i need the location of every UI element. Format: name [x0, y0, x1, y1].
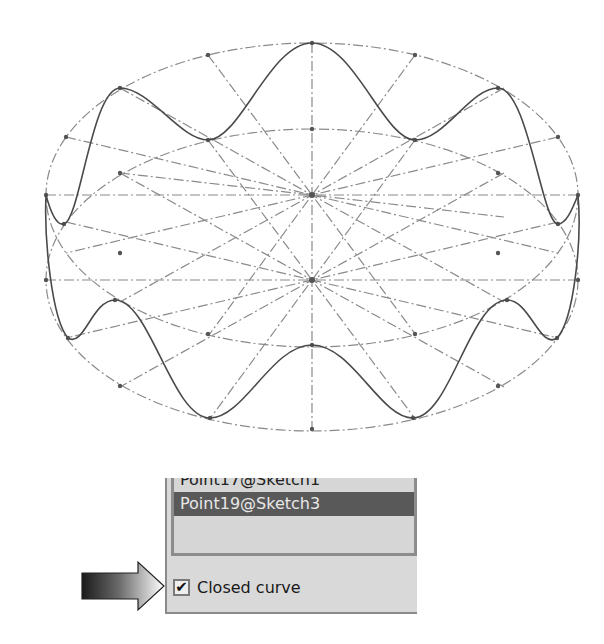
sketch-canvas [0, 0, 604, 450]
closed-curve-checkbox[interactable]: ✔ [173, 579, 190, 596]
point-selection-listbox[interactable]: Point17@Sketch1 Point19@Sketch3 [171, 478, 417, 556]
construction-geometry [46, 43, 578, 431]
list-item-selected[interactable]: Point19@Sketch3 [174, 492, 414, 516]
closed-curve-label[interactable]: Closed curve [197, 578, 301, 597]
checkmark-icon: ✔ [175, 580, 188, 595]
list-item[interactable]: Point17@Sketch1 [174, 478, 414, 492]
property-panel: Point17@Sketch1 Point19@Sketch3 ✔ Closed… [165, 478, 417, 614]
arrow-right-icon [80, 560, 172, 612]
closed-curve-option[interactable]: ✔ Closed curve [173, 576, 301, 598]
